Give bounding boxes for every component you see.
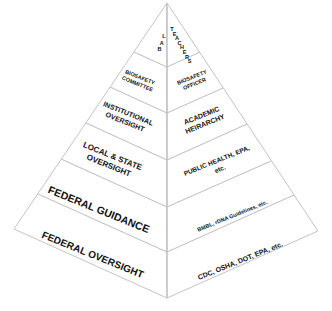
oversight-pyramid: LAB TEACHERS BIOSAFETYCOMMITTEE BIOSAFET…	[0, 0, 332, 311]
